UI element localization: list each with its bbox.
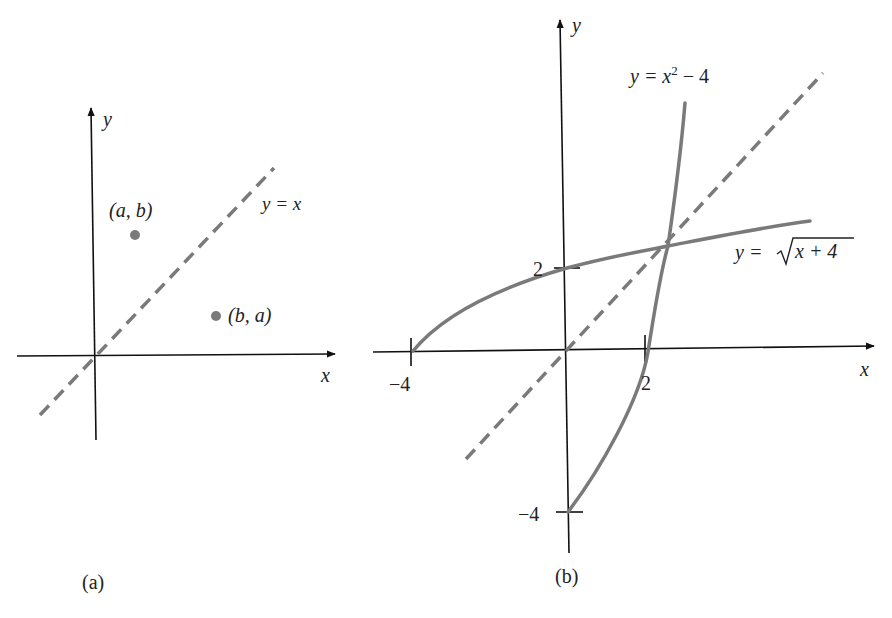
figure: y x y = x (a, b) (b, a) (a) y x −4 2 2 −… — [0, 0, 892, 618]
panel-b-x-label: x — [859, 358, 869, 380]
tick-label-y-neg4: −4 — [518, 503, 539, 525]
parabola-label: y = x2 − 4 — [628, 63, 709, 88]
panel-b: y x −4 2 2 −4 y = x2 − 4 y = x + 4 (b) — [373, 14, 874, 588]
panel-b-caption: (b) — [555, 565, 578, 588]
panel-a-y-axis — [91, 108, 96, 440]
panel-b-line-y-equals-x — [466, 73, 823, 459]
panel-a-line-label: y = x — [260, 193, 302, 214]
parabola-label-suffix: − 4 — [678, 65, 709, 87]
parabola-label-prefix: y = x — [628, 65, 671, 88]
panel-a: y x y = x (a, b) (b, a) (a) — [17, 108, 335, 594]
panel-a-x-label: x — [320, 364, 330, 386]
panel-b-x-axis — [373, 346, 874, 352]
tick-label-x-neg4: −4 — [389, 373, 410, 395]
tick-label-x-2: 2 — [641, 372, 651, 394]
panel-a-line-y-equals-x — [40, 168, 274, 415]
panel-a-caption: (a) — [82, 571, 104, 594]
panel-a-y-label: y — [101, 108, 112, 131]
point-a-b — [130, 230, 140, 240]
sqrt-label-radicand: x + 4 — [794, 240, 837, 262]
point-a-b-label: (a, b) — [109, 199, 153, 222]
panel-b-y-label: y — [570, 14, 581, 37]
panel-b-y-axis — [560, 20, 569, 553]
tick-label-y-2: 2 — [533, 258, 543, 280]
sqrt-label-prefix: y = — [733, 241, 762, 264]
point-b-a-label: (b, a) — [228, 304, 272, 327]
curve-x-squared-minus-4 — [568, 103, 685, 512]
point-b-a — [211, 311, 221, 321]
panel-a-x-axis — [17, 354, 335, 356]
